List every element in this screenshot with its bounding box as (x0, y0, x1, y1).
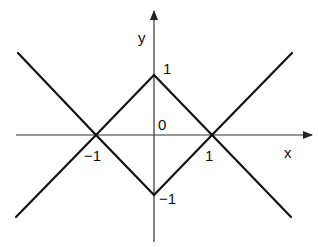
y-tick-neg1: −1 (159, 190, 176, 207)
line-y-eq-x-plus-1 (16, 75, 154, 217)
line-x-plus-y-eq-neg1 (18, 53, 154, 195)
y-axis-label: y (138, 29, 146, 46)
diagram-canvas: y x 0 1 −1 1 −1 (0, 0, 318, 247)
y-tick-1: 1 (163, 60, 171, 77)
origin-label: 0 (158, 116, 166, 133)
x-tick-neg1: −1 (84, 147, 101, 164)
x-tick-1: 1 (205, 147, 213, 164)
line-x-minus-y-eq-1 (154, 53, 292, 195)
x-axis-label: x (284, 144, 292, 161)
